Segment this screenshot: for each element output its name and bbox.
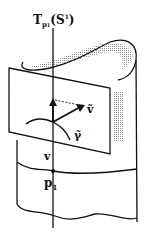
circle-S1 bbox=[17, 162, 137, 173]
label-tangent-space: Tp1(S1) bbox=[33, 14, 75, 26]
label-v-tilde: ṽ bbox=[87, 104, 93, 115]
label-v: v bbox=[44, 151, 50, 162]
diagram-canvas bbox=[0, 0, 148, 233]
tangent-plane bbox=[9, 68, 110, 154]
point-p1 bbox=[51, 169, 55, 173]
cylinder-bottom-edge bbox=[17, 204, 137, 219]
cylinder-right-side bbox=[136, 60, 137, 222]
rim-shading bbox=[30, 43, 133, 70]
side-shading bbox=[114, 92, 124, 142]
label-p1: p1 bbox=[44, 177, 57, 189]
label-gamma-tilde: γ̃ bbox=[74, 130, 81, 141]
